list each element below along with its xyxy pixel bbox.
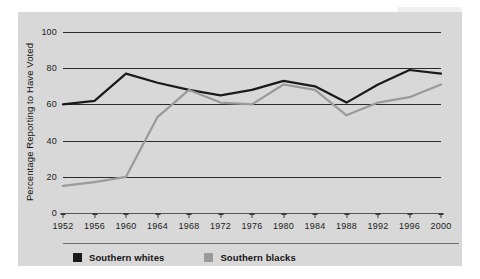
y-tick-label: 40	[47, 136, 57, 146]
x-tick-mark	[157, 213, 158, 218]
y-tick-label: 60	[47, 99, 57, 109]
y-tick-label: 20	[47, 172, 57, 182]
legend-label: Southern whites	[89, 252, 164, 263]
legend-swatch-icon	[73, 253, 82, 262]
x-tick-label: 1960	[116, 221, 137, 231]
x-tick-mark	[63, 213, 64, 218]
legend-swatch-icon	[204, 253, 213, 262]
x-tick-mark	[315, 213, 316, 218]
chart-figure: Percentage Reporting to Have Voted 02040…	[0, 0, 480, 279]
legend-divider	[63, 243, 459, 244]
y-tick-label: 100	[41, 27, 57, 37]
x-tick-mark	[378, 213, 379, 218]
x-tick-label: 1968	[179, 221, 200, 231]
x-tick-mark	[126, 213, 127, 218]
x-tick-label: 1996	[399, 221, 420, 231]
x-tick-label: 1976	[242, 221, 263, 231]
x-tick-mark	[283, 213, 284, 218]
x-tick-label: 1972	[210, 221, 231, 231]
legend-label: Southern blacks	[220, 252, 295, 263]
plot-area: 020406080100	[63, 32, 441, 213]
chart-panel: Percentage Reporting to Have Voted 02040…	[18, 12, 462, 266]
x-tick-label: 1980	[273, 221, 294, 231]
x-tick-label: 1964	[147, 221, 168, 231]
x-tick-label: 1992	[368, 221, 389, 231]
x-tick-label: 1956	[84, 221, 105, 231]
y-tick-label: 0	[52, 208, 57, 218]
x-tick-label: 1988	[336, 221, 357, 231]
series-lines	[63, 32, 441, 213]
y-tick-label: 80	[47, 63, 57, 73]
series-line-southern-blacks	[63, 85, 441, 186]
chart-legend: Southern whitesSouthern blacks	[73, 252, 336, 263]
x-tick-mark	[441, 213, 442, 218]
x-tick-label: 1952	[53, 221, 74, 231]
legend-item: Southern whites	[73, 252, 164, 263]
series-line-southern-whites	[63, 70, 441, 104]
x-tick-label: 2000	[431, 221, 452, 231]
x-tick-mark	[252, 213, 253, 218]
legend-item: Southern blacks	[204, 252, 295, 263]
x-tick-mark	[409, 213, 410, 218]
y-axis-title: Percentage Reporting to Have Voted	[24, 43, 35, 201]
x-tick-mark	[346, 213, 347, 218]
x-tick-mark	[94, 213, 95, 218]
x-tick-label: 1984	[305, 221, 326, 231]
x-tick-mark	[220, 213, 221, 218]
x-tick-mark	[189, 213, 190, 218]
